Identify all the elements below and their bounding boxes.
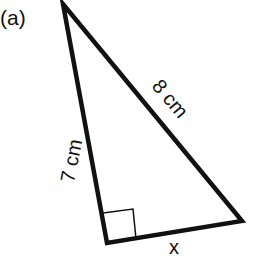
right-triangle [63, 4, 242, 243]
side-label-bottom: x [169, 236, 179, 258]
figure-label: (a) [0, 6, 26, 29]
triangle-diagram: (a) 7 cm 8 cm x [0, 0, 263, 275]
side-label-left: 7 cm [56, 137, 86, 184]
right-angle-marker [103, 209, 136, 239]
